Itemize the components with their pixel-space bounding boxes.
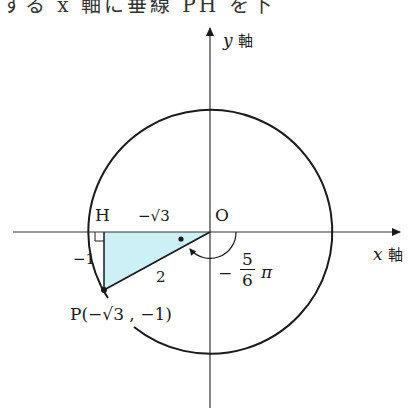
origin-label: O: [215, 207, 229, 224]
unit-circle-diagram: [0, 0, 416, 410]
segment-hp-label: −1: [73, 252, 95, 267]
angle-fraction: 5 6: [240, 251, 255, 289]
point-h-label: H: [95, 207, 110, 224]
segment-oh-label: −√3: [138, 209, 170, 224]
segment-op-label: 2: [156, 270, 166, 285]
angle-dot: [178, 236, 183, 241]
right-angle-marker: [95, 232, 104, 241]
x-axis-kanji: 軸: [388, 246, 403, 264]
point-p-label: P(−√3 , −1): [70, 306, 172, 323]
y-axis-label: y 軸: [223, 32, 253, 49]
angle-numerator: 5: [240, 251, 255, 270]
angle-pi: π: [261, 264, 272, 281]
point-p-dot: [101, 287, 107, 293]
x-axis-var: x: [373, 244, 383, 264]
angle-denominator: 6: [240, 270, 255, 289]
angle-sign: −: [218, 265, 232, 282]
y-axis-var: y: [223, 30, 233, 50]
y-axis-kanji: 軸: [238, 32, 253, 50]
x-axis-label: x 軸: [373, 246, 403, 263]
